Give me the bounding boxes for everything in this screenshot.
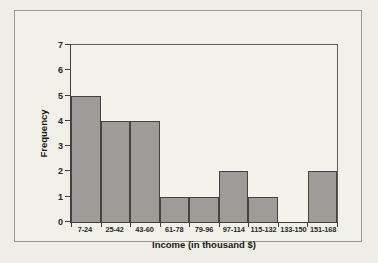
histogram-bar xyxy=(101,121,131,222)
histogram-bar xyxy=(189,197,219,222)
y-tick-mark xyxy=(65,170,71,171)
y-tick-label: 5 xyxy=(58,91,63,101)
histogram-bar-cell xyxy=(219,45,249,222)
y-tick-mark xyxy=(65,145,71,146)
y-tick-mark xyxy=(65,44,71,45)
histogram-bar xyxy=(219,171,249,222)
histogram-bar xyxy=(248,197,278,222)
x-tick-label: 97-114 xyxy=(219,225,249,234)
y-tick-label: 0 xyxy=(58,217,63,227)
histogram-bar-cell xyxy=(130,45,160,222)
histogram-bar-cell xyxy=(101,45,131,222)
histogram-bar xyxy=(160,197,190,222)
histogram-bar xyxy=(308,171,338,222)
y-tick-label: 1 xyxy=(58,192,63,202)
y-tick-label: 2 xyxy=(58,166,63,176)
y-axis-title-text: Frequency xyxy=(38,109,49,157)
y-axis-title: Frequency xyxy=(36,44,50,223)
histogram-bar-cell xyxy=(308,45,338,222)
x-tick-label: 79-96 xyxy=(189,225,219,234)
y-tick-label: 6 xyxy=(58,65,63,75)
histogram-bar-cell xyxy=(71,45,101,222)
x-tick-label: 25-42 xyxy=(100,225,130,234)
y-tick-label: 7 xyxy=(58,40,63,50)
histogram-bar xyxy=(71,96,101,222)
x-tick-label: 151-168 xyxy=(308,225,338,234)
x-tick-label: 115-132 xyxy=(249,225,279,234)
y-tick-mark xyxy=(65,95,71,96)
x-tick-label: 7-24 xyxy=(70,225,100,234)
figure-frame: Frequency 01234567 7-2425-4243-6061-7879… xyxy=(14,10,362,242)
y-tick-label: 3 xyxy=(58,141,63,151)
bars-container xyxy=(71,45,337,222)
x-tick-label: 43-60 xyxy=(130,225,160,234)
x-tick-label: 133-150 xyxy=(278,225,308,234)
histogram-bar-cell xyxy=(278,45,308,222)
y-tick-mark xyxy=(65,196,71,197)
x-tick-label: 61-78 xyxy=(159,225,189,234)
histogram-bar-cell xyxy=(189,45,219,222)
figure-canvas: Frequency 01234567 7-2425-4243-6061-7879… xyxy=(0,0,378,263)
x-axis-title: Income (in thousand $) xyxy=(70,239,338,250)
y-tick-mark xyxy=(65,120,71,121)
x-tick-labels: 7-2425-4243-6061-7879-9697-114115-132133… xyxy=(70,225,338,234)
histogram-bar-cell xyxy=(248,45,278,222)
histogram-bar-cell xyxy=(160,45,190,222)
y-tick-mark xyxy=(65,69,71,70)
plot-area: 01234567 xyxy=(70,44,338,223)
histogram-bar xyxy=(130,121,160,222)
y-tick-label: 4 xyxy=(58,116,63,126)
